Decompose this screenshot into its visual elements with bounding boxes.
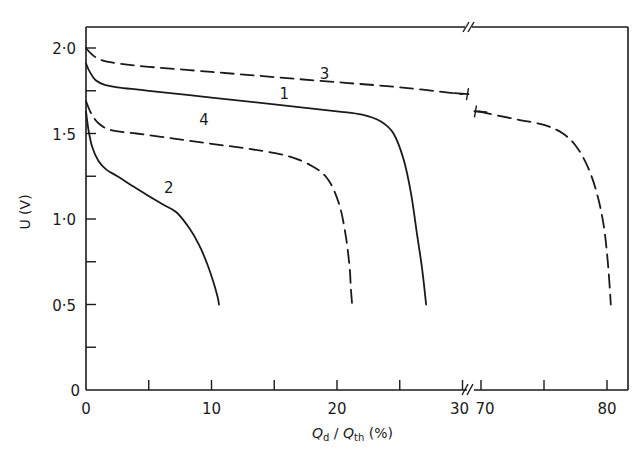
x-tick-label: 70 bbox=[475, 400, 494, 418]
x-tick-label: 20 bbox=[327, 400, 346, 418]
curve-label: 4 bbox=[199, 111, 209, 129]
plot-frame bbox=[86, 22, 628, 395]
y-tick-label: 1·5 bbox=[52, 126, 76, 144]
y-axis-label: U (V) bbox=[17, 194, 33, 229]
x-tick-label: 80 bbox=[597, 400, 616, 418]
curve-3 bbox=[86, 48, 463, 94]
y-tick-label: 0 bbox=[70, 382, 80, 400]
curve-label: 1 bbox=[280, 85, 290, 103]
y-tick-label: 2·0 bbox=[52, 40, 76, 58]
x-axis-label: Qd / Qth (%) bbox=[312, 425, 393, 443]
discharge-curve-chart: 0102030708000·51·01·52·0 1234 Qd / Qth (… bbox=[0, 0, 643, 465]
x-tick-label: 10 bbox=[202, 400, 221, 418]
curve-1 bbox=[86, 63, 426, 304]
y-tick-label: 0·5 bbox=[52, 297, 76, 315]
curve-3 bbox=[479, 111, 611, 304]
x-tick-label: 30 bbox=[450, 400, 469, 418]
axis-tick-labels: 0102030708000·51·01·52·0 bbox=[52, 40, 616, 418]
curve-4 bbox=[86, 101, 352, 305]
curve-labels: 1234 bbox=[164, 65, 329, 198]
curve-label: 2 bbox=[164, 179, 174, 197]
axis-ticks bbox=[86, 48, 607, 390]
y-tick-label: 1·0 bbox=[52, 211, 76, 229]
curves bbox=[86, 48, 611, 305]
curve-label: 3 bbox=[320, 65, 330, 83]
curve-2 bbox=[86, 111, 219, 304]
x-tick-label: 0 bbox=[81, 400, 91, 418]
axis-break-marks bbox=[462, 22, 474, 395]
